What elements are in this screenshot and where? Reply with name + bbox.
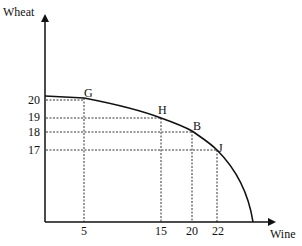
point-label-g: G bbox=[84, 86, 93, 100]
x-axis-title: Wine bbox=[270, 227, 296, 241]
x-tick-15: 15 bbox=[155, 224, 167, 238]
point-label-h: H bbox=[158, 103, 167, 117]
vertical-reference-lines bbox=[84, 98, 217, 222]
point-label-j: J bbox=[218, 141, 223, 155]
y-tick-18: 18 bbox=[28, 125, 40, 139]
chart-svg: Wheat Wine 20 19 18 17 5 15 20 22 G H B … bbox=[0, 0, 302, 246]
y-tick-20: 20 bbox=[28, 93, 40, 107]
x-tick-5: 5 bbox=[81, 224, 87, 238]
horizontal-reference-lines bbox=[46, 100, 217, 150]
point-label-b: B bbox=[193, 119, 201, 133]
ppf-chart: Wheat Wine 20 19 18 17 5 15 20 22 G H B … bbox=[0, 0, 302, 246]
x-tick-22: 22 bbox=[212, 224, 224, 238]
x-tick-20: 20 bbox=[186, 224, 198, 238]
y-tick-19: 19 bbox=[28, 110, 40, 124]
ppf-curve bbox=[45, 96, 253, 222]
y-axis-title: Wheat bbox=[3, 5, 35, 19]
y-tick-17: 17 bbox=[28, 143, 40, 157]
